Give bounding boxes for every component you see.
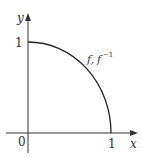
curve-label-finv-superscript: −1 [103,51,113,59]
curve-label-finv: f [96,53,103,66]
origin-label: 0 [18,135,26,149]
curve-label-f: f, [86,53,94,66]
x-tick-label: 1 [108,137,116,151]
graph-canvas: y 1 0 1 x f, f −1 [0,0,142,158]
x-axis-arrow-icon [130,130,138,136]
x-axis-label: x [130,137,137,151]
function-graph-figure: y 1 0 1 x f, f −1 [0,0,142,158]
y-axis-arrow-icon [25,13,31,21]
y-axis-label: y [16,11,24,25]
y-tick-label: 1 [15,36,23,50]
